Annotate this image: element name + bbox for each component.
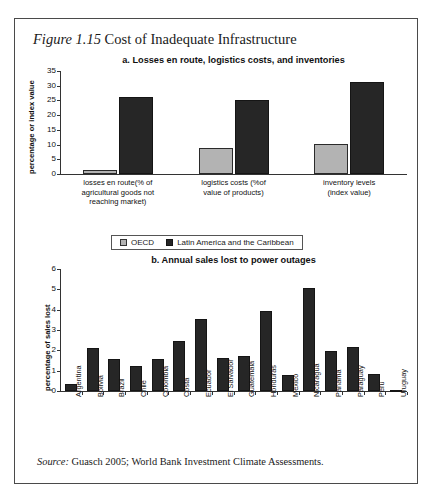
panel-b-y-tick-label: 0 (38, 386, 56, 395)
panel-b-y-tick (57, 330, 60, 331)
panel-b-category-label-10: Mexico (291, 374, 300, 397)
panel-b-category-label-6: Ecuador (204, 369, 213, 397)
panel-b-category-label-0: Argentina (74, 365, 83, 397)
figure-frame: Figure 1.15 Cost of Inadequate Infrastru… (14, 18, 418, 484)
panel-b-y-tick (57, 269, 60, 270)
source-text: Guasch 2005; World Bank Investment Clima… (72, 456, 324, 467)
panel-b-y-axis (60, 269, 61, 392)
panel-b-y-tick (57, 350, 60, 351)
source-prefix: Source: (37, 456, 69, 467)
panel-b-category-label-2: Brazil (117, 379, 126, 397)
panel-b-category-label-8: Guatemala (247, 361, 256, 397)
chart-panel-b: b. Annual sales lost to power outagesper… (15, 19, 419, 485)
source-note: Source: Guasch 2005; World Bank Investme… (37, 456, 324, 467)
panel-b-y-tick-label: 6 (38, 264, 56, 273)
panel-b-category-label-12: Panama (334, 369, 343, 397)
panel-b-y-tick-label: 2 (38, 345, 56, 354)
panel-b-category-label-3: Chile (139, 380, 148, 397)
panel-b-y-tick (57, 371, 60, 372)
panel-b-y-tick-label: 4 (38, 305, 56, 314)
panel-b-title: b. Annual sales lost to power outages (60, 255, 407, 265)
panel-b-category-label-9: Honduras (269, 365, 278, 397)
panel-b-category-label-5: Costa (182, 378, 191, 397)
panel-b-category-label-1: Bolivia (96, 375, 105, 397)
panel-b-category-label-4: Colombia (161, 366, 170, 397)
panel-b-y-tick (57, 391, 60, 392)
panel-b-y-tick-label: 1 (38, 366, 56, 375)
panel-b-category-label-13: Paraguay (356, 365, 365, 397)
panel-b-category-label-14: Peru (377, 381, 386, 397)
panel-b-y-tick (57, 310, 60, 311)
panel-b-y-tick-label: 3 (38, 325, 56, 334)
panel-b-category-label-11: Nicaragua (312, 363, 321, 397)
panel-b-category-label-15: Uruguay (399, 369, 408, 397)
panel-b-y-tick-label: 5 (38, 284, 56, 293)
panel-b-y-tick (57, 289, 60, 290)
panel-b-category-label-7: El Salvador (226, 359, 235, 397)
